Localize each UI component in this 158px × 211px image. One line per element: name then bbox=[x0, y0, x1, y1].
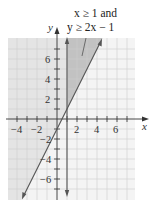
x-tick-label: 4 bbox=[94, 124, 100, 135]
y-tick-label: −6 bbox=[40, 174, 51, 185]
x-tick-label: −4 bbox=[11, 124, 23, 135]
y-tick-label: −4 bbox=[40, 154, 52, 165]
title-line-2: y ≥ 2x − 1 bbox=[67, 21, 115, 34]
x-tick-label: 6 bbox=[113, 124, 118, 135]
inequality-graph: x ≥ 1 and y ≥ 2x − 1 y x −4 −2 2 4 6 6 4… bbox=[0, 0, 158, 211]
y-axis-arrow-icon bbox=[55, 27, 60, 34]
x-axis-label: x bbox=[141, 120, 147, 132]
y-tick-label: 4 bbox=[45, 74, 51, 85]
x-tick-label: 2 bbox=[74, 124, 79, 135]
title-line-1: x ≥ 1 and bbox=[74, 7, 117, 19]
y-tick-label: 2 bbox=[45, 94, 50, 105]
y-tick-label: 6 bbox=[45, 54, 50, 65]
y-axis-label: y bbox=[47, 21, 53, 33]
y-tick-label: −2 bbox=[40, 134, 51, 145]
